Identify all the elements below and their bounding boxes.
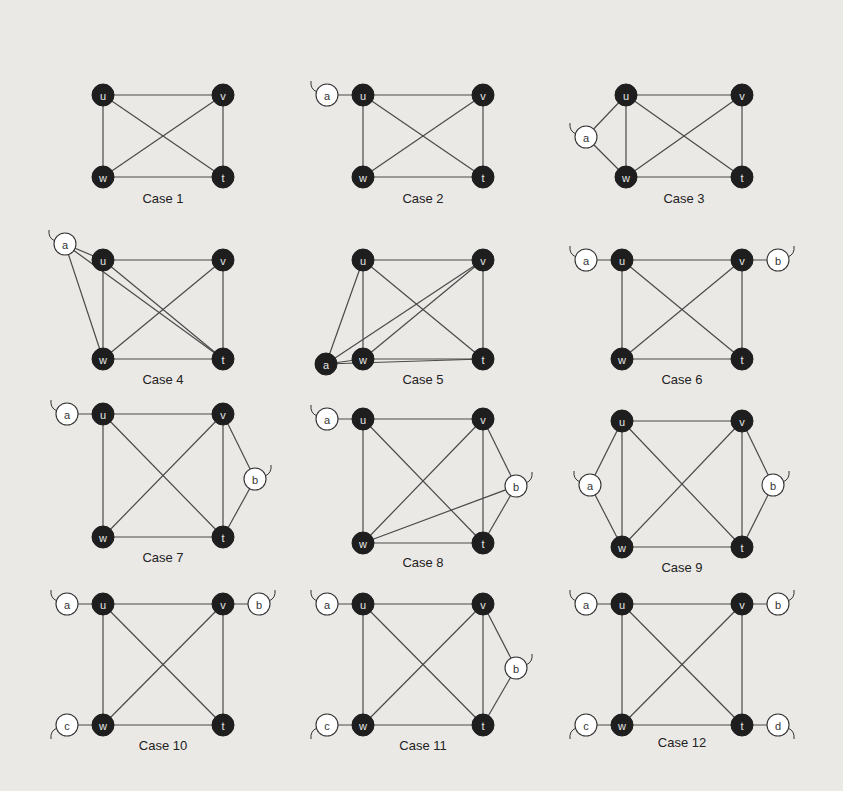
vertex-label: u: [619, 255, 625, 267]
vertex-u: u: [92, 84, 114, 106]
edge-a-u: [326, 260, 363, 364]
case-9: auvbwtCase 9: [574, 410, 789, 575]
cases-layer: uvwtCase 1auvwtCase 2auvwtCase 3auvwtCas…: [49, 81, 794, 753]
vertex-c: c: [570, 714, 597, 739]
vertex-label: a: [583, 255, 590, 267]
case-caption: Case 7: [142, 550, 183, 565]
vertex-w: w: [352, 348, 374, 370]
pendant-stub-icon: [49, 230, 55, 241]
vertex-t: t: [212, 166, 234, 188]
vertex-w: w: [615, 166, 637, 188]
case-8: auvbwtCase 8: [311, 405, 532, 570]
vertex-t: t: [472, 714, 494, 736]
vertex-b: b: [505, 654, 532, 679]
vertex-label: v: [480, 90, 486, 102]
vertex-t: t: [731, 714, 753, 736]
vertex-a: a: [315, 353, 337, 375]
vertex-label: u: [360, 90, 366, 102]
vertex-t: t: [472, 166, 494, 188]
pendant-stub-icon: [311, 728, 317, 739]
vertex-label: v: [480, 414, 486, 426]
vertex-v: v: [731, 84, 753, 106]
vertex-a: a: [311, 590, 338, 615]
graph-cases-figure: uvwtCase 1auvwtCase 2auvwtCase 3auvwtCas…: [0, 0, 843, 791]
vertex-d: d: [767, 714, 794, 739]
vertex-v: v: [472, 84, 494, 106]
vertex-w: w: [92, 348, 114, 370]
pendant-stub-icon: [526, 472, 532, 483]
vertex-label: c: [64, 720, 70, 732]
vertex-label: d: [775, 720, 781, 732]
vertex-label: b: [256, 599, 262, 611]
vertex-v: v: [472, 593, 494, 615]
vertex-c: c: [51, 714, 78, 739]
vertex-v: v: [212, 249, 234, 271]
vertex-label: a: [583, 599, 590, 611]
vertex-a: a: [570, 123, 597, 148]
pendant-stub-icon: [311, 405, 317, 416]
case-caption: Case 3: [663, 191, 704, 206]
case-5: auvwtCase 5: [315, 249, 494, 387]
vertex-t: t: [472, 532, 494, 554]
case-1: uvwtCase 1: [92, 84, 234, 206]
vertex-label: t: [221, 532, 224, 544]
vertex-a: a: [570, 590, 597, 615]
vertex-label: v: [480, 255, 486, 267]
vertex-label: v: [480, 599, 486, 611]
vertex-label: b: [252, 474, 258, 486]
vertex-v: v: [472, 249, 494, 271]
vertex-label: u: [360, 255, 366, 267]
vertex-v: v: [731, 410, 753, 432]
vertex-b: b: [767, 590, 794, 615]
vertex-label: u: [619, 416, 625, 428]
edge-a-v: [326, 260, 483, 364]
edge-b-w: [363, 486, 516, 543]
pendant-stub-icon: [526, 654, 532, 665]
case-4: auvwtCase 4: [49, 230, 234, 387]
vertex-w: w: [92, 526, 114, 548]
pendant-stub-icon: [570, 590, 576, 601]
vertex-label: c: [324, 720, 330, 732]
vertex-label: a: [64, 599, 71, 611]
vertex-b: b: [505, 472, 532, 497]
pendant-stub-icon: [788, 246, 794, 257]
vertex-label: a: [587, 480, 594, 492]
vertex-t: t: [472, 348, 494, 370]
case-11: auvbcwtCase 11: [311, 590, 532, 753]
vertex-u: u: [92, 249, 114, 271]
vertex-label: a: [324, 599, 331, 611]
vertex-t: t: [212, 348, 234, 370]
vertex-a: a: [51, 400, 78, 425]
vertex-label: v: [739, 90, 745, 102]
vertex-label: u: [360, 414, 366, 426]
pendant-stub-icon: [51, 400, 57, 411]
pendant-stub-icon: [311, 81, 317, 92]
vertex-label: t: [481, 538, 484, 550]
vertex-v: v: [212, 593, 234, 615]
vertex-label: w: [98, 172, 107, 184]
case-7: auvbwtCase 7: [51, 400, 271, 565]
vertex-label: b: [513, 663, 519, 675]
vertex-label: w: [358, 538, 367, 550]
pendant-stub-icon: [788, 590, 794, 601]
case-3: auvwtCase 3: [570, 84, 753, 206]
vertex-v: v: [731, 249, 753, 271]
vertex-label: w: [621, 172, 630, 184]
vertex-label: w: [98, 354, 107, 366]
vertex-label: t: [740, 354, 743, 366]
pendant-stub-icon: [311, 590, 317, 601]
vertex-w: w: [611, 348, 633, 370]
pendant-stub-icon: [788, 728, 794, 739]
vertex-t: t: [212, 526, 234, 548]
vertex-u: u: [352, 593, 374, 615]
edge-a-t: [326, 359, 483, 364]
case-caption: Case 2: [402, 191, 443, 206]
vertex-label: t: [221, 720, 224, 732]
vertex-w: w: [92, 166, 114, 188]
vertex-a: a: [311, 405, 338, 430]
vertex-b: b: [767, 246, 794, 271]
vertex-u: u: [611, 410, 633, 432]
vertex-label: u: [100, 599, 106, 611]
vertex-b: b: [244, 465, 271, 490]
case-caption: Case 6: [661, 372, 702, 387]
